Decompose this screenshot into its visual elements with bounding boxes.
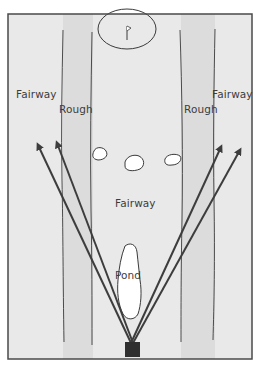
sand-trap-1 — [93, 148, 107, 160]
label-pond: Pond — [115, 270, 141, 281]
label-rough-left: Rough — [59, 104, 93, 115]
rough-left — [62, 14, 93, 359]
label-fairway-center: Fairway — [115, 198, 156, 209]
golf-hole-canvas — [0, 0, 259, 367]
rough-right — [180, 14, 215, 359]
label-rough-right: Rough — [184, 104, 218, 115]
label-fairway-left: Fairway — [16, 89, 57, 100]
tee-box — [125, 342, 140, 357]
golf-hole-diagram: Fairway Rough Rough Fairway Fairway Pond — [0, 0, 259, 367]
label-fairway-right: Fairway — [212, 89, 253, 100]
sand-trap-2 — [125, 155, 144, 170]
